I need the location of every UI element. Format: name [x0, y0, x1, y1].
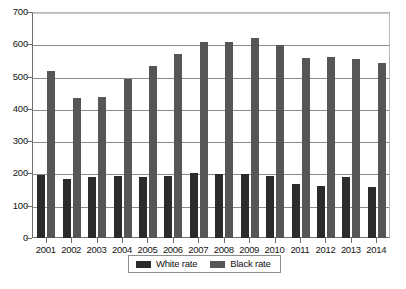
- bar-2002-white-rate: [63, 179, 71, 238]
- y-tick-label-200: 200: [0, 168, 28, 178]
- x-tick-mark-2014: [376, 238, 377, 243]
- y-tick-label-700: 700: [0, 7, 28, 17]
- bars-layer: [33, 12, 389, 238]
- chart-legend: White rate Black rate: [128, 255, 281, 273]
- bar-2014-black-rate: [378, 63, 386, 238]
- y-tick-mark-200: [26, 173, 32, 174]
- x-tick-mark-2009: [249, 238, 250, 243]
- y-tick-mark-600: [26, 44, 32, 45]
- bar-2008-black-rate: [225, 42, 233, 238]
- legend-label-white-rate: White rate: [156, 259, 197, 269]
- bar-2005-white-rate: [139, 177, 147, 238]
- bar-2013-black-rate: [352, 59, 360, 238]
- bar-2011-black-rate: [302, 58, 310, 238]
- x-tick-mark-2013: [351, 238, 352, 243]
- bar-2005-black-rate: [149, 66, 157, 238]
- bar-2007-black-rate: [200, 42, 208, 238]
- bar-2013-white-rate: [342, 177, 350, 238]
- bar-2011-white-rate: [292, 184, 300, 238]
- bar-group-2006: [160, 12, 185, 238]
- x-tick-label-2014: 2014: [361, 245, 391, 255]
- bar-2003-white-rate: [88, 177, 96, 238]
- plot-area: 0100200300400500600700 20012002200320042…: [0, 0, 406, 248]
- bar-group-2005: [135, 12, 160, 238]
- bar-2006-black-rate: [174, 54, 182, 238]
- y-tick-label-500: 500: [0, 72, 28, 82]
- bar-group-2010: [262, 12, 287, 238]
- bar-group-2003: [84, 12, 109, 238]
- y-tick-mark-100: [26, 206, 32, 207]
- x-tick-mark-2003: [97, 238, 98, 243]
- x-tick-mark-2007: [198, 238, 199, 243]
- bar-2004-white-rate: [114, 176, 122, 238]
- y-tick-mark-400: [26, 109, 32, 110]
- bar-group-2013: [338, 12, 363, 238]
- x-tick-mark-2010: [275, 238, 276, 243]
- bar-2002-black-rate: [73, 98, 81, 238]
- x-tick-mark-2005: [147, 238, 148, 243]
- bar-2001-black-rate: [47, 71, 55, 238]
- bar-2010-black-rate: [276, 45, 284, 238]
- y-tick-label-400: 400: [0, 104, 28, 114]
- y-tick-label-600: 600: [0, 39, 28, 49]
- bar-2012-white-rate: [317, 186, 325, 238]
- bar-group-2007: [186, 12, 211, 238]
- bar-group-2012: [313, 12, 338, 238]
- y-tick-mark-300: [26, 141, 32, 142]
- bar-chart-figure: 0100200300400500600700 20012002200320042…: [0, 0, 406, 289]
- y-tick-mark-0: [26, 238, 32, 239]
- bar-2006-white-rate: [164, 176, 172, 238]
- legend-label-black-rate: Black rate: [230, 259, 270, 269]
- x-tick-mark-2002: [71, 238, 72, 243]
- y-tick-label-0: 0: [0, 233, 28, 243]
- bar-group-2008: [211, 12, 236, 238]
- x-tick-mark-2006: [173, 238, 174, 243]
- bar-2001-white-rate: [37, 175, 45, 238]
- legend-entry-black-rate: Black rate: [210, 259, 270, 269]
- bar-2003-black-rate: [98, 97, 106, 238]
- y-tick-mark-500: [26, 77, 32, 78]
- bar-group-2009: [236, 12, 261, 238]
- bar-group-2002: [58, 12, 83, 238]
- bar-2009-white-rate: [241, 174, 249, 238]
- bar-2008-white-rate: [215, 174, 223, 238]
- y-tick-label-100: 100: [0, 201, 28, 211]
- bar-group-2011: [287, 12, 312, 238]
- legend-entry-white-rate: White rate: [136, 259, 197, 269]
- bar-2010-white-rate: [266, 176, 274, 238]
- caption-strip: [4, 281, 402, 289]
- legend-swatch-black-rate: [210, 261, 225, 268]
- bar-group-2014: [364, 12, 389, 238]
- bar-group-2001: [33, 12, 58, 238]
- bar-group-2004: [109, 12, 134, 238]
- x-tick-mark-2001: [46, 238, 47, 243]
- bar-2009-black-rate: [251, 38, 259, 238]
- bar-2007-white-rate: [190, 173, 198, 238]
- x-tick-mark-2008: [224, 238, 225, 243]
- y-tick-label-300: 300: [0, 136, 28, 146]
- x-tick-mark-2012: [325, 238, 326, 243]
- x-tick-mark-2004: [122, 238, 123, 243]
- bar-2012-black-rate: [327, 57, 335, 238]
- legend-swatch-white-rate: [136, 261, 151, 268]
- bar-2004-black-rate: [124, 79, 132, 238]
- bar-2014-white-rate: [368, 187, 376, 238]
- x-tick-mark-2011: [300, 238, 301, 243]
- y-tick-mark-700: [26, 12, 32, 13]
